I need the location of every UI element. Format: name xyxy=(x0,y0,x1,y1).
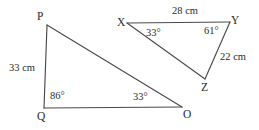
geometry-figure: P Q O X Y Z 33 cm 28 cm 22 cm 86° 33° 33… xyxy=(0,0,259,130)
angle-label-Y: 61° xyxy=(204,26,219,37)
angle-label-X: 33° xyxy=(146,28,161,39)
segment-PQ xyxy=(44,25,47,108)
vertex-label-Z: Z xyxy=(201,82,208,94)
vertex-label-O: O xyxy=(183,109,191,121)
segment-PO xyxy=(47,25,182,107)
angle-label-O: 33° xyxy=(133,92,148,103)
segment-XY xyxy=(127,22,230,23)
vertex-label-Q: Q xyxy=(37,111,45,123)
segment-XZ xyxy=(127,23,205,79)
vertex-label-Y: Y xyxy=(231,15,239,27)
vertex-label-P: P xyxy=(37,11,43,23)
angle-label-Q: 86° xyxy=(50,91,65,102)
side-label-YZ: 22 cm xyxy=(220,52,246,63)
vertex-label-X: X xyxy=(117,17,125,29)
side-label-PQ: 33 cm xyxy=(9,63,35,74)
segment-QO xyxy=(44,107,182,108)
side-label-XY: 28 cm xyxy=(172,6,198,17)
